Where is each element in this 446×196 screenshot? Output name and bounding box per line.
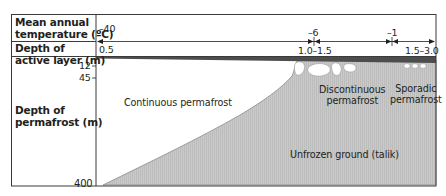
arrowhead-discontinuous-right (315, 39, 321, 44)
temperature-value-continuous: –40 (99, 23, 115, 34)
depth-tick-12: 12 (79, 60, 91, 71)
region-label-sporadic-line2: permafrost (390, 94, 442, 105)
region-label-discontinuous-line2: permafrost (319, 95, 386, 106)
region-label-discontinuous-line1: Discontinuous (319, 84, 386, 95)
depth-ticks (92, 66, 96, 78)
active-layer-value-sporadic: 1.5–3.0 (405, 45, 439, 56)
depth-tick-400: 400 (74, 178, 93, 189)
arrowhead-discontinuous-left (308, 39, 314, 44)
region-label-unfrozen: Unfrozen ground (talik) (290, 149, 399, 160)
temperature-value-discontinuous: –6 (308, 27, 318, 38)
region-label-continuous: Continuous permafrost (124, 97, 232, 108)
depth-tick-45: 45 (79, 72, 91, 83)
unfrozen-ground-region (103, 60, 436, 185)
row-label-permafrost-depth: Depth of permafrost (m) (15, 104, 102, 128)
active-layer-value-discontinuous: 1.0–1.5 (298, 45, 332, 56)
active-layer-band (96, 57, 436, 63)
arrowhead-sporadic-left (386, 39, 392, 44)
row-label-permafrost-depth-line2: permafrost (m) (15, 116, 102, 128)
row-label-active-layer: Depth of active layer (m) (15, 42, 105, 66)
region-label-sporadic: Sporadic permafrost (390, 83, 442, 105)
row-label-active-layer-line1: Depth of (15, 42, 105, 54)
row-label-permafrost-depth-line1: Depth of (15, 104, 102, 116)
active-layer-value-continuous: 0.5 (99, 44, 114, 55)
temperature-value-sporadic: –1 (387, 27, 397, 38)
arrow-row (97, 37, 435, 46)
region-label-sporadic-line1: Sporadic (390, 83, 442, 94)
row-label-active-layer-line2: active layer (m) (15, 54, 105, 66)
frozen-islands-sporadic (404, 64, 426, 69)
arrowhead-right (429, 39, 435, 44)
region-label-discontinuous: Discontinuous permafrost (319, 84, 386, 106)
arrowhead-sporadic-right (393, 39, 399, 44)
